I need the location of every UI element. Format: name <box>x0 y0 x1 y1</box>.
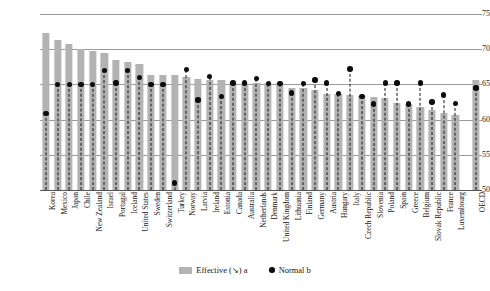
dot-normal[interactable] <box>441 92 446 97</box>
bar-effective[interactable] <box>171 75 178 190</box>
dot-marker-icon <box>269 267 274 272</box>
x-label-portugal: Portugal <box>116 192 123 217</box>
bar-group[interactable] <box>391 14 403 190</box>
bar-group[interactable] <box>309 14 321 190</box>
dot-normal[interactable] <box>195 97 200 102</box>
dot-normal[interactable] <box>43 111 48 116</box>
bar-group[interactable] <box>403 14 415 190</box>
bar-group[interactable] <box>344 14 356 190</box>
dot-normal[interactable] <box>312 77 317 82</box>
chart-legend: Effective (↘) a Normal b <box>0 265 490 275</box>
x-label-australia: Australia <box>245 192 252 219</box>
dot-normal[interactable] <box>78 82 83 87</box>
dot-normal[interactable] <box>277 81 282 86</box>
bar-group[interactable] <box>286 14 298 190</box>
dot-normal[interactable] <box>254 76 259 81</box>
x-label-switzerland: Switzerland <box>163 192 170 227</box>
x-label-korea: Korea <box>46 192 53 210</box>
bar-group[interactable] <box>262 14 274 190</box>
bar-group[interactable] <box>297 14 309 190</box>
dot-stem <box>80 84 81 190</box>
dot-stem <box>209 77 210 190</box>
dot-stem <box>244 83 245 190</box>
bar-group[interactable] <box>239 14 251 190</box>
plot-area <box>40 14 482 190</box>
dot-stem <box>127 70 128 190</box>
bar-group[interactable] <box>87 14 99 190</box>
dot-normal[interactable] <box>453 101 458 106</box>
bar-group[interactable] <box>368 14 380 190</box>
bar-group[interactable] <box>227 14 239 190</box>
bar-group[interactable] <box>40 14 52 190</box>
bar-group[interactable] <box>426 14 438 190</box>
x-label-spain: Spain <box>397 192 404 209</box>
dot-normal[interactable] <box>102 68 107 73</box>
dot-normal[interactable] <box>359 94 364 99</box>
x-label-italy: Italy <box>350 192 357 206</box>
bar-group[interactable] <box>75 14 87 190</box>
bar-group[interactable] <box>122 14 134 190</box>
y-tick-label-65: 65 <box>462 80 490 88</box>
dot-stem <box>268 84 269 190</box>
bar-group[interactable] <box>180 14 192 190</box>
dot-normal[interactable] <box>230 80 235 85</box>
dot-normal[interactable] <box>347 66 352 71</box>
dot-normal[interactable] <box>207 74 212 79</box>
dot-normal[interactable] <box>219 94 224 99</box>
bar-group[interactable] <box>414 14 426 190</box>
x-label-new-zealand: New Zealand <box>93 192 100 232</box>
legend-label-normal: Normal b <box>279 266 311 275</box>
bar-group[interactable] <box>63 14 75 190</box>
x-label-hungary: Hungary <box>338 192 345 218</box>
dot-normal[interactable] <box>113 80 118 85</box>
bar-group[interactable] <box>321 14 333 190</box>
dot-normal[interactable] <box>184 67 189 72</box>
x-label-ireland: Ireland <box>210 192 217 213</box>
bar-group[interactable] <box>251 14 263 190</box>
bar-group[interactable] <box>356 14 368 190</box>
dot-normal[interactable] <box>324 80 329 85</box>
dot-normal[interactable] <box>383 80 388 85</box>
dot-normal[interactable] <box>418 80 423 85</box>
dot-normal[interactable] <box>429 99 434 104</box>
bar-group[interactable] <box>110 14 122 190</box>
bar-group[interactable] <box>192 14 204 190</box>
dot-stem <box>92 84 93 190</box>
bar-group[interactable] <box>157 14 169 190</box>
x-label-luxembourg: Luxembourg <box>455 192 462 230</box>
dot-normal[interactable] <box>371 101 376 106</box>
dot-normal[interactable] <box>160 82 165 87</box>
dot-normal[interactable] <box>289 90 294 95</box>
bar-group[interactable] <box>52 14 64 190</box>
dot-stem <box>279 84 280 190</box>
bar-group[interactable] <box>134 14 146 190</box>
dot-normal[interactable] <box>301 81 306 86</box>
bar-group[interactable] <box>169 14 181 190</box>
bar-group[interactable] <box>274 14 286 190</box>
bar-group[interactable] <box>145 14 157 190</box>
legend-label-effective: Effective (↘) a <box>196 265 247 275</box>
x-label-poland: Poland <box>385 192 392 213</box>
x-label-turkey: Turkey <box>175 192 182 213</box>
x-label-germany: Germany <box>315 192 322 220</box>
dot-normal[interactable] <box>67 82 72 87</box>
dot-normal[interactable] <box>172 180 177 185</box>
x-axis-category-labels: KoreaMexicoJapanChileNew ZealandIsraelPo… <box>40 192 482 264</box>
y-tick-label-60: 60 <box>462 116 490 124</box>
bar-group[interactable] <box>470 14 482 190</box>
bar-group[interactable] <box>333 14 345 190</box>
bar-group[interactable] <box>204 14 216 190</box>
bar-group[interactable] <box>438 14 450 190</box>
bar-group[interactable] <box>99 14 111 190</box>
bar-group[interactable] <box>379 14 391 190</box>
x-label-denmark: Denmark <box>268 192 275 220</box>
bar-group[interactable] <box>216 14 228 190</box>
dot-stem <box>45 113 46 190</box>
dot-stem <box>197 100 198 190</box>
dot-normal[interactable] <box>148 82 153 87</box>
dot-normal[interactable] <box>394 80 399 85</box>
y-tick-label-55: 55 <box>462 151 490 159</box>
x-label-france: France <box>444 192 451 212</box>
x-label-sweden: Sweden <box>151 192 158 215</box>
bar-group[interactable] <box>450 14 462 190</box>
